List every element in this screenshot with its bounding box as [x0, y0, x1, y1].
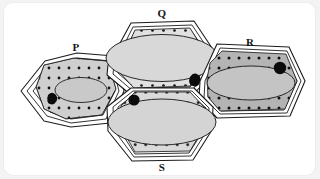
cell-r-label: R [246, 36, 255, 48]
cell-q-label: Q [158, 7, 167, 19]
cell-s-vacuole [108, 99, 216, 145]
cell-s-nucleus [128, 94, 139, 105]
cell-s[interactable]: S [107, 88, 216, 173]
figure-frame: P Q R [0, 0, 320, 179]
cell-s-label: S [159, 161, 165, 173]
figure-card: P Q R [4, 3, 315, 175]
cell-r[interactable]: R [199, 36, 305, 118]
cell-p-vacuole [55, 78, 107, 103]
cell-q-vacuole [106, 35, 218, 82]
cell-p-label: P [73, 41, 80, 53]
cell-r-nucleus [274, 62, 286, 74]
plant-cells-diagram: P Q R [4, 3, 315, 175]
